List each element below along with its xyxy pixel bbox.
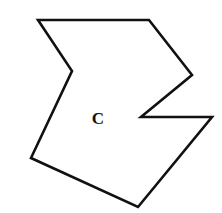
- polygon-diagram: C: [0, 0, 222, 213]
- background: [0, 0, 222, 213]
- shape-label: C: [92, 109, 104, 128]
